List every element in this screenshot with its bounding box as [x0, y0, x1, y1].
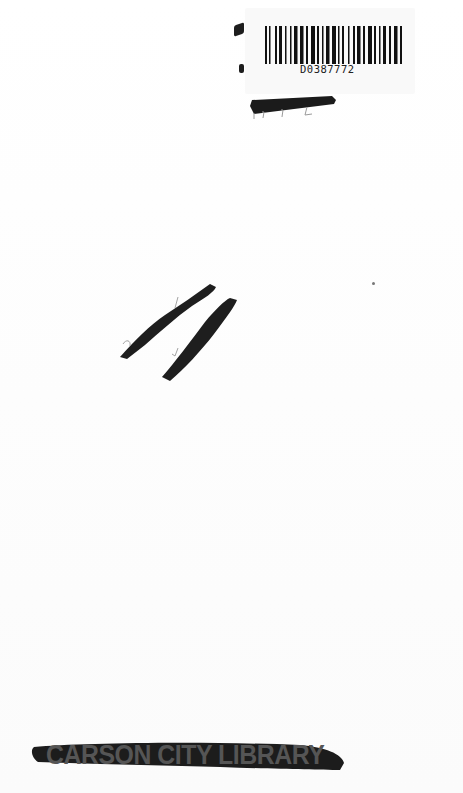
library-stamp: CARSON CITY LIBRARY [46, 740, 324, 771]
barcode-icon [265, 26, 405, 64]
ink-mark [234, 22, 244, 37]
pencil-marks [254, 107, 312, 119]
scanned-page: D0387772 CARSON CITY LIBRARY [0, 0, 463, 793]
strike-stroke-1 [120, 284, 216, 359]
ink-mark [239, 64, 244, 73]
strike-stroke-2 [162, 298, 237, 381]
dust-speck [372, 282, 375, 285]
marker-strokes [0, 0, 463, 793]
barcode-number: D0387772 [300, 63, 355, 75]
redaction-bar [250, 96, 336, 114]
